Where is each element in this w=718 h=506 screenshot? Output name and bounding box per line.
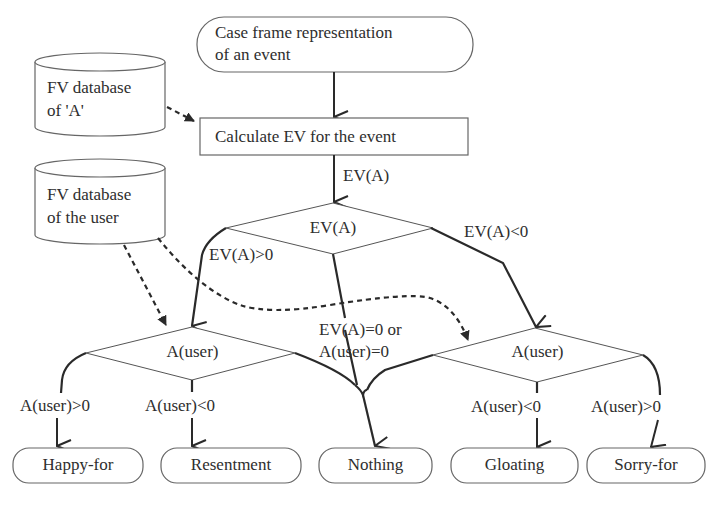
db-a-label-line1: FV database: [47, 77, 131, 99]
user-decision-left-label: A(user): [150, 342, 235, 362]
arrow-to-sorry-for: [651, 420, 658, 447]
db-user-label-line2: of the user: [47, 207, 119, 229]
happy-for-label: Happy-for: [13, 455, 143, 475]
db-user-label-line1: FV database: [47, 184, 131, 206]
ev-decision-label: EV(A): [293, 218, 373, 238]
arrow-ev-positive: [192, 228, 226, 326]
dashed-arrow-db-user-to-right: [158, 238, 468, 340]
line-ev-zero: [333, 254, 345, 318]
sorry-for-label: Sorry-for: [587, 455, 705, 475]
user-decision-right-label: A(user): [495, 342, 580, 362]
resentment-label: Resentment: [161, 455, 301, 475]
start-label-line2: of an event: [215, 44, 291, 66]
dashed-arrow-db-a-to-calc: [167, 107, 194, 121]
start-label-line1: Case frame representation: [215, 22, 392, 44]
edge-label-zero-line2: A(user)=0: [319, 342, 389, 362]
line-right-positive: [643, 355, 660, 395]
arrow-to-nothing: [363, 395, 375, 446]
db-a-label-line2: of 'A': [47, 100, 84, 122]
line-left-positive: [61, 353, 86, 393]
edge-label-left-negative: A(user)<0: [145, 396, 215, 416]
edge-label-ev-positive: EV(A)>0: [209, 245, 273, 265]
edge-label-ev-negative: EV(A)<0: [464, 222, 528, 242]
arrow-ev-negative: [431, 228, 536, 327]
flowchart-canvas: [0, 0, 718, 506]
edge-label-right-positive: A(user)>0: [591, 397, 661, 417]
calculate-ev-label: Calculate EV for the event: [215, 126, 396, 148]
edge-label-left-positive: A(user)>0: [20, 396, 90, 416]
dashed-arrow-db-user-to-left: [124, 245, 166, 325]
edge-label-ev: EV(A): [343, 166, 389, 186]
edge-label-zero-line1: EV(A)=0 or: [319, 320, 402, 340]
nothing-label: Nothing: [319, 455, 432, 475]
gloating-label: Gloating: [451, 455, 578, 475]
edge-label-right-negative: A(user)<0: [471, 397, 541, 417]
